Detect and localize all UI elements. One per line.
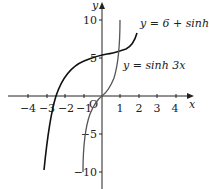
y-tick-label: −10 [74, 166, 97, 179]
origin-label: O [89, 98, 98, 111]
x-tick-label: 3 [154, 102, 161, 115]
x-tick-label: 2 [136, 102, 143, 115]
chart: −4 −3 −2 −1 1 2 3 4 x 10 5 −5 −10 y O y … [0, 0, 209, 189]
x-tick-label: −4 [20, 102, 36, 115]
y-tick-label: 10 [83, 14, 97, 27]
y-axis-arrow-icon [99, 2, 105, 9]
x-tick-label: 4 [172, 102, 179, 115]
x-axis-label: x [189, 98, 196, 111]
curve2-label: y = sinh 3x [122, 59, 186, 72]
x-tick-label: −2 [58, 102, 74, 115]
curve1-label: y = 6 + sinh x [139, 17, 209, 30]
y-axis-label: y [91, 0, 99, 12]
y-tick-label: −5 [81, 128, 97, 141]
x-tick-label: 1 [117, 102, 124, 115]
